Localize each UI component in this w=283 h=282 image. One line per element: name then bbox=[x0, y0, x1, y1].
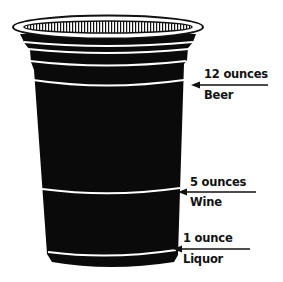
wine-amount-label: 5 ounces bbox=[190, 175, 246, 189]
liquor-drink-label: Liquor bbox=[183, 252, 223, 266]
beer-drink-label: Beer bbox=[204, 88, 233, 102]
cup-body bbox=[20, 34, 196, 267]
cup-diagram bbox=[0, 0, 283, 282]
beer-amount-label: 12 ounces bbox=[204, 67, 268, 81]
wine-drink-label: Wine bbox=[190, 195, 222, 209]
liquor-amount-label: 1 ounce bbox=[183, 231, 233, 245]
cup-rim-ribs bbox=[24, 21, 192, 33]
